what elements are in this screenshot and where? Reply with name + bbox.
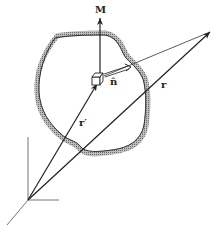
label-vector-r: r [161,80,166,90]
label-unit-normal-n: n̂ [110,77,117,87]
label-magnetization-M: M [95,5,106,15]
coordinate-axes [7,137,59,225]
volume-element-cube [92,73,103,85]
magnetized-body [37,33,148,154]
diagram-canvas [0,0,220,232]
label-vector-r-prime: r′ [79,118,87,128]
field-vector-r [28,32,210,200]
x-axis [7,200,28,225]
